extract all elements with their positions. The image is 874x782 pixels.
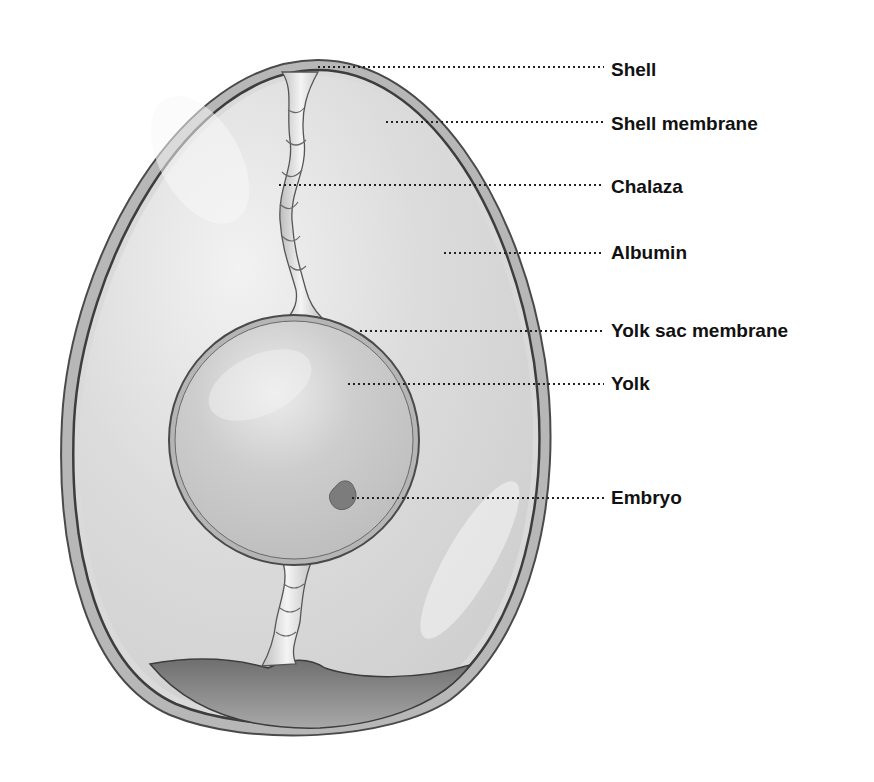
label-shell-membrane: Shell membrane — [611, 114, 758, 133]
label-albumin: Albumin — [611, 243, 687, 262]
label-shell: Shell — [611, 60, 656, 79]
egg-diagram: Shell Shell membrane Chalaza Albumin Yol… — [0, 0, 874, 782]
label-chalaza: Chalaza — [611, 177, 683, 196]
label-yolk: Yolk — [611, 374, 650, 393]
label-embryo: Embryo — [611, 488, 682, 507]
label-yolk-sac-membrane: Yolk sac membrane — [611, 321, 788, 340]
